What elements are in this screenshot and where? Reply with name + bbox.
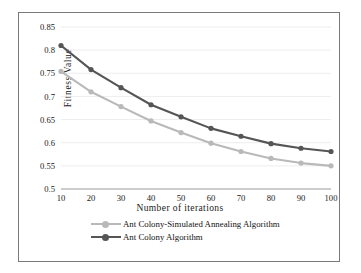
legend-marker-aco xyxy=(91,232,121,242)
y-tick-label: 0.6 xyxy=(44,138,55,148)
y-tick-label: 0.7 xyxy=(44,92,55,102)
x-tick-label: 90 xyxy=(297,193,306,203)
data-point xyxy=(58,43,63,48)
y-tick-label: 0.65 xyxy=(40,115,55,125)
data-point xyxy=(298,160,303,165)
y-tick-label: 0.85 xyxy=(40,22,55,32)
chart-frame: Fitness Value 0.850.80.750.70.650.60.550… xyxy=(18,12,340,262)
legend-label-aco: Ant Colony Algorithm xyxy=(123,232,203,242)
data-point xyxy=(208,141,213,146)
series-line-0 xyxy=(61,71,331,165)
y-tick-label: 0.5 xyxy=(44,184,55,194)
data-point xyxy=(118,104,123,109)
data-point xyxy=(268,156,273,161)
x-tick-label: 80 xyxy=(267,193,276,203)
x-tick-label: 20 xyxy=(87,193,96,203)
data-point xyxy=(178,114,183,119)
data-point xyxy=(148,118,153,123)
x-tick-label: 60 xyxy=(207,193,216,203)
series-line-1 xyxy=(61,46,331,152)
data-point xyxy=(208,126,213,131)
data-point xyxy=(328,149,333,154)
data-point xyxy=(268,141,273,146)
data-point xyxy=(148,102,153,107)
legend-item-aco-sa: Ant Colony-Simulated Annealing Algorithm xyxy=(19,219,341,229)
data-point xyxy=(88,89,93,94)
data-point xyxy=(88,67,93,72)
y-tick-label: 0.75 xyxy=(40,68,55,78)
x-axis-title: Number of iterations xyxy=(19,203,341,213)
y-tick-label: 0.55 xyxy=(40,161,55,171)
legend-marker-aco-sa xyxy=(91,219,121,229)
chart-legend: Ant Colony-Simulated Annealing Algorithm… xyxy=(19,218,341,245)
x-tick-label: 70 xyxy=(237,193,246,203)
data-point xyxy=(238,149,243,154)
data-point xyxy=(328,163,333,168)
x-tick-label: 40 xyxy=(147,193,156,203)
y-tick-label: 0.8 xyxy=(44,45,55,55)
legend-item-aco: Ant Colony Algorithm xyxy=(19,232,341,242)
legend-label-aco-sa: Ant Colony-Simulated Annealing Algorithm xyxy=(123,219,280,229)
data-point xyxy=(178,130,183,135)
x-tick-label: 10 xyxy=(57,193,66,203)
data-point xyxy=(58,69,63,74)
x-tick-label: 100 xyxy=(325,193,338,203)
x-tick-label: 50 xyxy=(177,193,186,203)
data-point xyxy=(298,146,303,151)
data-point xyxy=(238,134,243,139)
line-chart-svg: 0.850.80.750.70.650.60.550.5102030405060… xyxy=(19,13,341,213)
x-tick-label: 30 xyxy=(117,193,126,203)
data-point xyxy=(118,85,123,90)
